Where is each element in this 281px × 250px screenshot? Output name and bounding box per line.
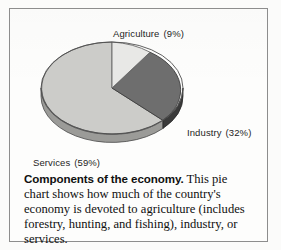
pie-label-industry-name: Industry (187, 127, 222, 138)
pie-label-agriculture-pct: (9%) (164, 28, 184, 39)
figure-page: Agriculture(9%) Industry(32%) Services(5… (0, 0, 281, 250)
pie-label-industry: Industry(32%) (187, 127, 251, 138)
caption-lead: Components of the economy. (24, 172, 184, 185)
pie-label-services-name: Services (33, 157, 70, 168)
pie-label-services-pct: (59%) (74, 157, 100, 168)
pie-label-industry-pct: (32%) (226, 127, 252, 138)
pie-label-agriculture: Agriculture(9%) (113, 28, 184, 39)
pie-label-services: Services(59%) (33, 157, 100, 168)
pie-chart: Agriculture(9%) Industry(32%) Services(5… (9, 8, 268, 174)
pie-label-agriculture-name: Agriculture (113, 28, 160, 39)
figure-caption: Components of the economy. This pie char… (24, 172, 250, 247)
